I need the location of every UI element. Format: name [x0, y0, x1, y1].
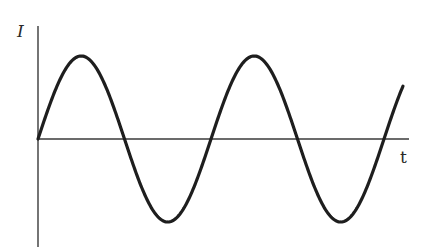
x-axis-label: t [400, 147, 407, 167]
y-axis-label: I [17, 21, 24, 41]
sine-wave-diagram [0, 0, 431, 249]
